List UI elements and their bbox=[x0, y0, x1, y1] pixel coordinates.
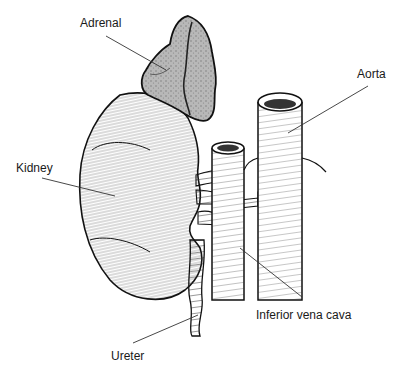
label-aorta: Aorta bbox=[357, 68, 386, 80]
ureter-shape bbox=[189, 240, 205, 336]
ureter-pointer bbox=[133, 315, 198, 343]
kidney-anatomy-diagram: Adrenal Aorta Kidney Inferior vena cava … bbox=[0, 0, 396, 372]
label-adrenal: Adrenal bbox=[80, 17, 121, 29]
label-ureter: Ureter bbox=[111, 350, 144, 362]
kidney-shape bbox=[80, 93, 202, 299]
label-inferior-vena-cava: Inferior vena cava bbox=[256, 309, 351, 321]
inferior-vena-cava-shape bbox=[212, 142, 244, 300]
adrenal-pointer bbox=[106, 36, 166, 70]
label-kidney: Kidney bbox=[16, 162, 53, 174]
aorta-shape bbox=[244, 93, 326, 300]
